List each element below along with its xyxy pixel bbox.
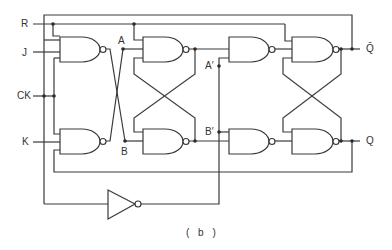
circuit-diagram: R J CK K A B A′ B′ Q̄ Q ( b ) — [0, 0, 392, 250]
junction-dot — [339, 139, 343, 143]
label-q-bar: Q̄ — [366, 44, 374, 54]
figure-caption: ( b ) — [186, 227, 219, 238]
junction-dot — [193, 47, 197, 51]
label-b-prime: B′ — [205, 127, 214, 137]
node-b-dot — [123, 139, 127, 143]
junction-dot — [51, 22, 55, 26]
junction-dot — [193, 139, 197, 143]
label-ck: CK — [17, 91, 31, 101]
junction-dot — [339, 47, 343, 51]
nand-gate-slave-bottom — [229, 129, 292, 154]
label-a: A — [118, 36, 125, 46]
nand-gate-k — [60, 129, 106, 154]
node-a-dot — [121, 47, 125, 51]
nand-gate-q-bar — [292, 37, 339, 62]
label-j: J — [22, 48, 27, 58]
node-a-prime-dot — [217, 64, 221, 68]
junction-dot — [350, 47, 354, 51]
label-k: K — [22, 137, 29, 147]
label-r: R — [21, 19, 28, 29]
junction-dot — [132, 22, 136, 26]
nand-gate-q — [292, 129, 339, 154]
label-a-prime: A′ — [205, 61, 214, 71]
cross-wires-input — [106, 47, 143, 143]
nand-gate-j — [60, 37, 106, 62]
junction-dot — [42, 94, 46, 98]
schematic — [0, 0, 392, 250]
clock-wire — [33, 40, 60, 204]
label-b: B — [121, 147, 128, 157]
node-b-prime-dot — [217, 130, 221, 134]
nand-gate-master-top — [143, 37, 189, 62]
label-q: Q — [366, 136, 374, 146]
junction-dot — [350, 139, 354, 143]
nand-gate-master-bottom — [143, 129, 189, 154]
clock-inverter — [108, 190, 141, 219]
junction-dot — [52, 94, 56, 98]
